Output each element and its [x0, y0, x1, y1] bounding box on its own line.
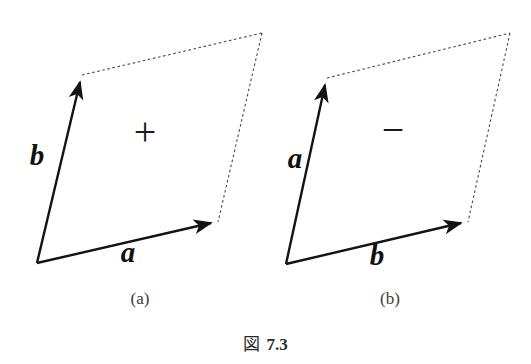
figure-caption-word: 図: [243, 335, 260, 354]
figure-caption: 図7.3: [0, 330, 531, 355]
vector-label-b-panel-b: b: [370, 241, 385, 270]
panel-caption-b: (b): [380, 290, 400, 307]
dashed-edge-top-a: [82, 33, 262, 75]
vector-label-a-panel-a: a: [121, 238, 136, 267]
dashed-edge-top-b: [327, 33, 510, 78]
plus-sign-icon: +: [134, 112, 157, 152]
panel-caption-a: (a): [131, 290, 150, 307]
vector-label-a-panel-b: a: [288, 144, 303, 173]
vector-a-arrow-b: [286, 85, 325, 264]
figure-caption-number: 7.3: [266, 335, 287, 354]
dashed-edge-right-a: [218, 33, 262, 222]
minus-sign-icon: −: [382, 110, 405, 150]
figure-container: b a + (a) a b − (b) 図7.3: [0, 0, 531, 364]
vector-diagram-svg: [0, 0, 531, 364]
vector-b-arrow-a: [37, 82, 80, 263]
vector-label-b-panel-a: b: [30, 141, 45, 170]
dashed-edge-right-b: [468, 33, 510, 222]
